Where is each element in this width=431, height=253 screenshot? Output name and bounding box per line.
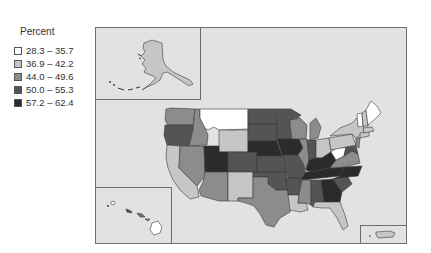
state-kansas: [257, 156, 286, 172]
state-south-dakota: [248, 124, 277, 141]
us-choropleth-map: .st { stroke: #3a3a3a; stroke-width: 0.6…: [0, 0, 431, 253]
state-montana: [200, 109, 248, 130]
state-north-dakota: [248, 109, 277, 124]
state-washington: [165, 108, 195, 125]
puerto-rico-inset: [361, 226, 407, 244]
state-colorado: [228, 152, 257, 172]
state-new-mexico: [228, 172, 253, 201]
state-new-jersey: [356, 138, 360, 148]
territory-puerto-rico: [376, 231, 395, 238]
state-wyoming: [219, 130, 248, 152]
alaska-inset: [96, 28, 201, 100]
hawaii-inset: [96, 188, 172, 244]
